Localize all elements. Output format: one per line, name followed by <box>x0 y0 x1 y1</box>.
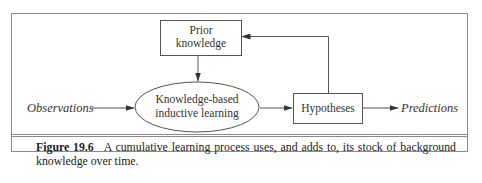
kb-learning-label-2: inductive learning <box>155 107 239 120</box>
figure-number: Figure 19.6 <box>36 140 94 154</box>
caption-text: A cumulative learning process uses, and … <box>36 140 456 168</box>
prior-knowledge-node: Prior knowledge <box>161 21 242 56</box>
kb-learning-label-1: Knowledge-based <box>155 93 238 106</box>
kb-inductive-learning-node: Knowledge-based inductive learning <box>135 82 259 132</box>
figure-caption: Figure 19.6A cumulative learning process… <box>36 140 456 168</box>
arrow-hypotheses-to-prior-feedback <box>242 37 329 94</box>
predictions-label: Predictions <box>400 101 458 115</box>
prior-knowledge-label-2: knowledge <box>176 37 226 50</box>
observations-label: Observations <box>27 101 94 115</box>
hypotheses-label: Hypotheses <box>301 102 355 115</box>
hypotheses-node: Hypotheses <box>294 94 363 124</box>
prior-knowledge-label-1: Prior <box>190 24 213 36</box>
